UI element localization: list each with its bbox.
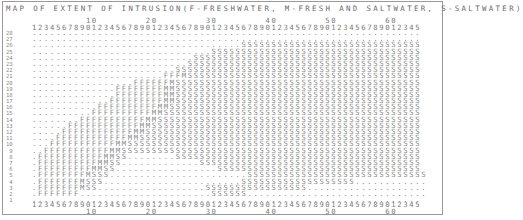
map-title: MAP OF EXTENT OF INTRUSION(F-FRESHWATER,… [6, 4, 523, 13]
bottom-axis-tens: 10 20 30 40 50 60 [32, 207, 397, 216]
intrusion-map-grid: 28......................................… [6, 30, 427, 203]
row-label: 1 [6, 197, 32, 203]
